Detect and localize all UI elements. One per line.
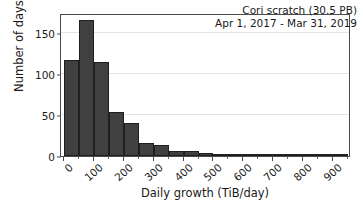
x-tick-mark [212,157,213,161]
x-tick-minor-mark [198,157,199,159]
x-tick-minor-mark [108,157,109,159]
histogram-bar [124,123,139,156]
histogram-bar [258,154,273,156]
x-tick-label: 0 [62,161,75,174]
histogram-bar [154,145,169,156]
x-tick-label: 200 [112,161,135,183]
histogram-bar [213,154,228,156]
x-tick-label: 900 [321,161,344,183]
x-tick-mark [302,157,303,161]
annotation-line: Cori scratch (30.5 PB) [215,4,357,17]
x-tick-minor-mark [138,157,139,159]
x-tick-minor-mark [317,157,318,159]
x-tick-mark [63,157,64,161]
histogram-bar [109,112,124,156]
histogram-bar [199,153,214,156]
x-tick-minor-mark [257,157,258,159]
x-tick-minor-mark [78,157,79,159]
plot-area [60,14,350,157]
x-tick-mark [332,157,333,161]
histogram-bar [333,154,348,156]
histogram-bar [169,151,184,156]
x-tick-minor-mark [168,157,169,159]
x-tick-label: 400 [172,161,195,183]
x-tick-label: 300 [142,161,165,183]
histogram-bar [139,143,154,156]
histogram-bar [64,60,79,156]
histogram-bar [303,154,318,156]
histogram-bar [79,20,94,156]
x-tick-mark [242,157,243,161]
plot-clip [61,15,349,156]
y-tick-label: 150 [35,28,55,40]
x-tick-label: 500 [202,161,225,183]
x-axis-ticks: 0100200300400500600700800900 [60,157,350,185]
x-tick-mark [183,157,184,161]
x-tick-label: 700 [261,161,284,183]
gridline-y-150 [61,32,349,33]
histogram-bar [273,154,288,156]
y-tick-label: 100 [35,69,55,81]
histogram-bar [184,151,199,156]
histogram-bar [94,62,109,156]
histogram-bar [318,154,333,156]
x-tick-mark [153,157,154,161]
x-tick-mark [93,157,94,161]
y-axis-ticks: 050100150 [0,14,60,157]
histogram-bar [243,154,258,156]
x-tick-minor-mark [287,157,288,159]
x-tick-mark [123,157,124,161]
y-tick-label: 50 [42,110,55,122]
x-tick-label: 600 [231,161,254,183]
annotation-line: Apr 1, 2017 - Mar 31, 2019 [215,17,357,30]
x-tick-minor-mark [347,157,348,159]
x-tick-mark [272,157,273,161]
histogram-bar [228,154,243,156]
histogram-bar [288,154,303,156]
chart-annotation: Cori scratch (30.5 PB)Apr 1, 2017 - Mar … [215,4,357,29]
x-tick-minor-mark [227,157,228,159]
histogram-figure: Number of days 050100150 Cori scratch (3… [0,0,363,207]
y-tick-label: 0 [48,151,55,163]
x-tick-label: 100 [82,161,105,183]
x-axis-label: Daily growth (TiB/day) [60,186,350,200]
x-tick-label: 800 [291,161,314,183]
